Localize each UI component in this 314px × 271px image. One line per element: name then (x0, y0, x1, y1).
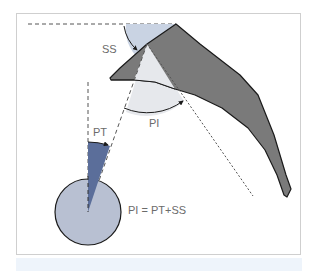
pi-label: PI (149, 117, 159, 129)
pt-label: PT (93, 126, 107, 138)
pelvic-parameters-diagram: SS PI PT PI = PT+SS (0, 0, 314, 271)
ss-label: SS (102, 43, 117, 55)
formula-label: PI = PT+SS (128, 204, 186, 216)
